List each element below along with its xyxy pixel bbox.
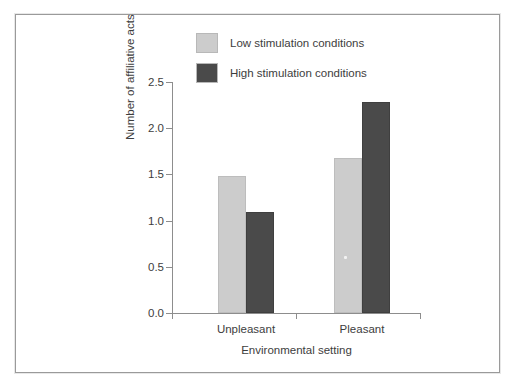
x-axis-tick-label: Unpleasant <box>196 322 296 336</box>
legend-label-high-stimulation: High stimulation conditions <box>230 65 367 81</box>
legend-label-low-stimulation: Low stimulation conditions <box>230 35 364 51</box>
y-axis-tick-label: 0.0 <box>148 307 164 319</box>
legend-swatch-high-stimulation <box>196 63 218 83</box>
x-axis-tick <box>296 313 297 319</box>
x-axis-tick <box>420 313 421 319</box>
x-axis-title: Environmental setting <box>172 344 421 356</box>
bar-pleasant-low <box>334 158 362 313</box>
x-axis-tick-label: Pleasant <box>312 322 412 336</box>
y-axis-tick-label: 2.5 <box>148 76 164 88</box>
bar-pleasant-high <box>362 102 390 313</box>
y-axis-tick-labels: 0.00.51.01.52.02.5 <box>112 0 164 385</box>
plot-area <box>172 82 420 313</box>
legend-swatch-low-stimulation <box>196 33 218 53</box>
bar-unpleasant-low <box>218 176 246 313</box>
y-axis-title: Number of affiliative acts <box>124 0 136 140</box>
x-axis-tick <box>172 313 173 319</box>
y-axis-tick-label: 1.5 <box>148 168 164 180</box>
bar-unpleasant-high <box>246 212 274 313</box>
y-axis-tick-label: 1.0 <box>148 215 164 227</box>
figure-canvas: Low stimulation conditions High stimulat… <box>0 0 514 385</box>
y-axis-tick-label: 2.0 <box>148 122 164 134</box>
scan-artifact-speck <box>344 256 347 259</box>
y-axis-tick-label: 0.5 <box>148 261 164 273</box>
